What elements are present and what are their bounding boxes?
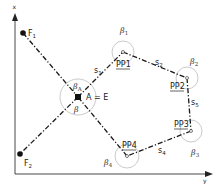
label-pp3: PP3 [174, 120, 189, 129]
label-s1: s1 [94, 66, 102, 76]
label-s5: s5 [191, 98, 199, 108]
x-axis-label: x [13, 3, 17, 10]
segment-s3 [78, 97, 127, 156]
label-f1: F1 [28, 29, 36, 39]
segment-labels: s1 s2 s5 s4 [94, 58, 199, 156]
label-beta-2: β2 [189, 57, 198, 67]
label-s4: s4 [158, 146, 166, 156]
point-pp2 [186, 77, 189, 80]
label-pp2: PP2 [170, 82, 185, 91]
point-a-e [75, 94, 81, 100]
path-planning-diagram: x y F1 F2 A = E PP1 PP2 PP3 [0, 0, 217, 184]
label-pp4: PP4 [122, 141, 137, 150]
label-beta-a: βA [72, 82, 83, 92]
diagram-svg: x y F1 F2 A = E PP1 PP2 PP3 [0, 0, 217, 184]
segment-a-f2 [20, 97, 78, 154]
point-pp1 [122, 51, 125, 54]
label-s2: s2 [155, 58, 163, 68]
segment-f1-a [23, 33, 78, 97]
point-f1 [20, 30, 26, 36]
label-beta: β [73, 105, 79, 114]
label-f2: F2 [24, 159, 32, 169]
label-beta-3: β3 [190, 148, 200, 158]
label-beta-4: β4 [103, 158, 113, 168]
label-pp1: PP1 [116, 60, 131, 69]
label-beta-1: β1 [119, 26, 128, 36]
x-axis-arrow-icon [12, 13, 18, 21]
point-f2 [17, 151, 23, 157]
point-pp3 [190, 130, 193, 133]
label-a-e: A = E [86, 93, 108, 102]
y-axis-label: y [203, 177, 207, 184]
point-labels: F1 F2 A = E PP1 PP2 PP3 PP4 [24, 29, 189, 169]
point-pp4 [126, 155, 129, 158]
axes: x y [12, 3, 213, 184]
